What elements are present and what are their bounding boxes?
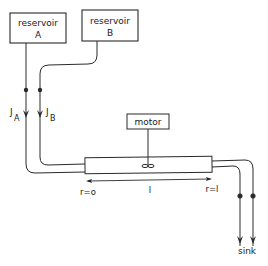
pipe-b xyxy=(40,41,97,165)
pipe-a xyxy=(26,43,85,173)
reservoir-a-label: reservoir xyxy=(18,18,58,28)
dimension-line xyxy=(88,179,210,181)
reservoir-a: reservoir A xyxy=(10,13,66,43)
start-position-label: r=o xyxy=(80,187,96,197)
diagram-canvas: reservoir A reservoir B J A J B motor xyxy=(0,0,268,266)
outlet-pipe-inner xyxy=(212,166,240,246)
flow-dot-b xyxy=(38,88,42,92)
motor-label: motor xyxy=(134,117,161,127)
flux-label-a: J A xyxy=(9,107,20,123)
flux-b-subscript: B xyxy=(50,114,56,123)
reservoir-b-label: reservoir xyxy=(90,16,130,26)
reservoir-a-id: A xyxy=(35,30,42,40)
outlet-pipe-outer xyxy=(212,160,253,246)
flux-label-b: J B xyxy=(45,107,56,123)
reservoir-b-id: B xyxy=(107,28,113,38)
outlet-dot-inner xyxy=(238,194,243,199)
flux-a-subscript: A xyxy=(14,114,20,123)
flux-a-symbol: J xyxy=(9,107,13,117)
flux-b-symbol: J xyxy=(45,107,49,117)
flow-dot-a xyxy=(24,88,28,92)
length-dimension: r=o l r=l xyxy=(80,177,218,197)
sink-label: sink xyxy=(238,246,257,256)
reservoir-b: reservoir B xyxy=(82,10,138,41)
end-position-label: r=l xyxy=(206,184,219,194)
outlet-dot-outer xyxy=(251,194,256,199)
length-label: l xyxy=(149,185,151,195)
